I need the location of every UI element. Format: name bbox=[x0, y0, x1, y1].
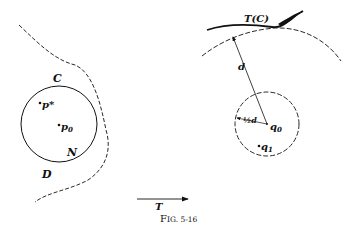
right-panel: T(C) d ½d q0 q1 bbox=[202, 11, 341, 156]
point-p-star bbox=[39, 102, 42, 105]
label-tc: T(C) bbox=[244, 13, 269, 24]
label-q1: q1 bbox=[261, 141, 273, 154]
figure-caption: FIG. 5-16 bbox=[160, 213, 197, 224]
label-q0: q0 bbox=[270, 121, 282, 134]
figure-5-16: C p* p0 N D T(C) d ½d q0 q1 T bbox=[0, 0, 350, 236]
label-p0: p0 bbox=[61, 121, 73, 134]
label-half-d: ½d bbox=[243, 115, 257, 125]
left-panel: C p* p0 N D bbox=[19, 25, 108, 202]
mapping-arrow: T bbox=[137, 199, 188, 212]
label-p-star: p* bbox=[42, 99, 55, 110]
region-d-boundary bbox=[19, 25, 108, 202]
point-q0 bbox=[266, 123, 268, 125]
label-t: T bbox=[155, 201, 164, 212]
label-d-distance: d bbox=[238, 61, 245, 72]
label-c: C bbox=[53, 72, 62, 85]
point-q1 bbox=[258, 145, 261, 148]
distance-arc bbox=[202, 28, 341, 61]
image-curve-tc-thick bbox=[278, 12, 300, 26]
label-n: N bbox=[66, 146, 78, 159]
label-d: D bbox=[41, 168, 52, 181]
point-p0 bbox=[58, 124, 61, 127]
